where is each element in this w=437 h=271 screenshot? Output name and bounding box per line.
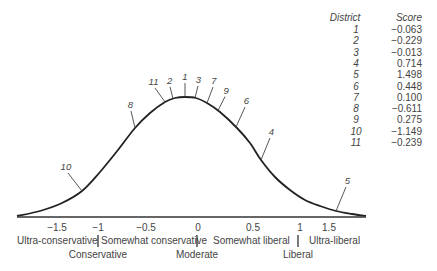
table-row: 60.448: [353, 81, 422, 92]
marker-label: 9: [223, 85, 229, 96]
district-markers: 1234567891011: [61, 71, 351, 211]
marker-label: 5: [345, 175, 351, 186]
marker-leader-line: [261, 138, 270, 160]
table-cell-score: 0.100: [397, 92, 422, 103]
table-cell-district: 8: [353, 103, 359, 114]
marker-label: 1: [182, 71, 187, 82]
table-cell-district: 3: [353, 47, 359, 58]
x-tick-label: 1.5: [322, 222, 336, 233]
table-cell-district: 1: [353, 24, 359, 35]
table-cell-district: 10: [350, 126, 362, 137]
category-label: Ultra-liberal: [309, 235, 360, 246]
table-row: 3−0.013: [353, 47, 422, 58]
table-cell-score: 0.714: [397, 58, 422, 69]
marker-leader-line: [336, 187, 346, 211]
table-row: 51.498: [353, 69, 422, 80]
marker-leader-line: [68, 173, 82, 191]
table-cell-district: 6: [353, 81, 359, 92]
x-tick-label: −0.5: [136, 222, 156, 233]
table-row: 40.714: [353, 58, 422, 69]
marker-leader-line: [131, 111, 135, 128]
table-cell-score: −1.149: [391, 126, 422, 137]
marker-leader-line: [207, 87, 213, 103]
table-row: 11−0.239: [351, 137, 423, 148]
table-header-district: District: [330, 12, 362, 23]
table-cell-score: −0.063: [391, 24, 422, 35]
district-marker: 2: [166, 75, 173, 99]
table-cell-score: 1.498: [397, 69, 422, 80]
table-row: 1−0.063: [353, 24, 422, 35]
table-row: 90.275: [353, 114, 422, 125]
marker-leader-line: [218, 97, 225, 111]
table-cell-district: 11: [351, 137, 361, 148]
category-label: Moderate: [176, 249, 219, 260]
marker-label: 3: [196, 74, 202, 85]
category-label: Conservative: [69, 249, 128, 260]
table-row: 10−1.149: [350, 126, 422, 137]
table-cell-score: −0.611: [392, 103, 423, 114]
table-cell-score: −0.013: [391, 47, 422, 58]
table-cell-score: 0.275: [397, 114, 422, 125]
district-marker: 1: [182, 71, 187, 97]
marker-leader-line: [170, 87, 173, 99]
district-marker: 8: [128, 99, 135, 128]
x-tick-label: −1: [92, 222, 104, 233]
table-cell-score: −0.229: [391, 35, 422, 46]
table-row: 70.100: [353, 92, 422, 103]
category-label: Somewhat liberal: [213, 235, 290, 246]
x-tick-label: −1.5: [47, 222, 67, 233]
district-marker: 5: [336, 175, 351, 211]
table-cell-score: 0.448: [397, 81, 422, 92]
table-cell-score: −0.239: [391, 137, 422, 148]
district-marker: 7: [207, 75, 217, 103]
marker-label: 11: [149, 76, 159, 87]
marker-label: 10: [61, 161, 72, 172]
marker-leader-line: [195, 86, 198, 98]
table-cell-district: 5: [353, 69, 359, 80]
table-row: 8−0.611: [353, 103, 422, 114]
category-label: Ultra-conservative: [17, 235, 98, 246]
curve-layer: [17, 97, 366, 216]
x-tick-label: 0: [195, 222, 201, 233]
x-tick-label: 0.5: [246, 222, 260, 233]
table-cell-district: 9: [353, 114, 359, 125]
table-row: 2−0.229: [352, 35, 422, 46]
district-score-table: DistrictScore1−0.0632−0.2293−0.01340.714…: [330, 12, 423, 148]
normal-curve-chart: −1.5−1−0.500.511.5 1234567891011 Ultra-c…: [0, 0, 437, 271]
marker-label: 6: [244, 95, 250, 106]
district-marker: 11: [149, 76, 165, 102]
district-marker: 10: [61, 161, 82, 191]
marker-label: 4: [269, 126, 274, 137]
district-marker: 6: [236, 95, 250, 127]
table-header-score: Score: [396, 12, 423, 23]
table-cell-district: 4: [353, 58, 359, 69]
category-label: Liberal: [283, 249, 313, 260]
district-marker: 4: [261, 126, 274, 160]
table-cell-district: 2: [352, 35, 359, 46]
category-labels: Ultra-conservativeSomewhat conservativeS…: [17, 235, 360, 260]
district-marker: 3: [195, 74, 202, 98]
category-label: Somewhat conservative: [101, 235, 208, 246]
marker-label: 7: [211, 75, 217, 86]
bell-curve: [17, 97, 366, 216]
marker-label: 2: [166, 75, 173, 86]
x-axis: −1.5−1−0.500.511.5: [17, 217, 366, 233]
marker-leader-line: [155, 88, 165, 102]
marker-leader-line: [236, 107, 245, 127]
district-marker: 9: [218, 85, 229, 111]
table-cell-district: 7: [353, 92, 359, 103]
x-tick-label: 1: [297, 222, 303, 233]
marker-label: 8: [128, 99, 134, 110]
